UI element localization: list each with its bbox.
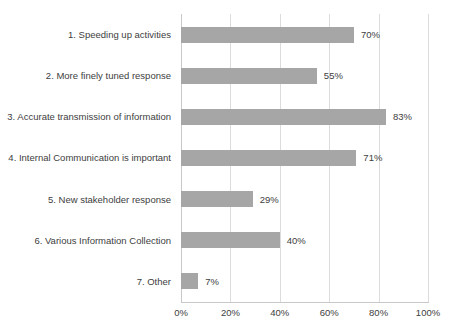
chart-row: 70% <box>181 14 428 55</box>
category-label: 2. More finely tuned response <box>0 55 176 96</box>
chart-row: 83% <box>181 96 428 137</box>
bars-area: 70%55%83%71%29%40%7% <box>181 14 428 302</box>
category-label: 1. Speeding up activities <box>0 14 176 55</box>
category-label: 6. Various Information Collection <box>0 220 176 261</box>
category-label: 4. Internal Communication is important <box>0 137 176 178</box>
category-label: 7. Other <box>0 261 176 302</box>
category-label: 5. New stakeholder response <box>0 179 176 220</box>
gridline <box>428 14 429 302</box>
x-axis-tick-label: 40% <box>270 307 289 318</box>
x-axis-tick-label: 0% <box>174 307 188 318</box>
chart-row: 40% <box>181 220 428 261</box>
x-axis-tick-label: 100% <box>416 307 440 318</box>
x-axis-line <box>181 302 429 303</box>
chart-row: 55% <box>181 55 428 96</box>
value-label: 83% <box>393 111 412 122</box>
category-label: 3. Accurate transmission of information <box>0 96 176 137</box>
value-label: 7% <box>205 276 219 287</box>
bar-chart: 1. Speeding up activities2. More finely … <box>0 0 458 334</box>
value-label: 71% <box>363 152 382 163</box>
category-axis: 1. Speeding up activities2. More finely … <box>0 14 176 302</box>
bar <box>181 150 356 166</box>
x-axis-tick-label: 20% <box>221 307 240 318</box>
chart-row: 29% <box>181 179 428 220</box>
bar <box>181 109 386 125</box>
bar <box>181 273 198 289</box>
value-label: 40% <box>287 235 306 246</box>
x-axis-tick-label: 80% <box>369 307 388 318</box>
chart-row: 7% <box>181 261 428 302</box>
value-label: 29% <box>260 194 279 205</box>
value-label: 70% <box>361 29 380 40</box>
chart-row: 71% <box>181 137 428 178</box>
x-axis-tick-label: 60% <box>320 307 339 318</box>
bar <box>181 191 253 207</box>
value-label: 55% <box>324 70 343 81</box>
bar <box>181 68 317 84</box>
bar <box>181 232 280 248</box>
bar <box>181 27 354 43</box>
